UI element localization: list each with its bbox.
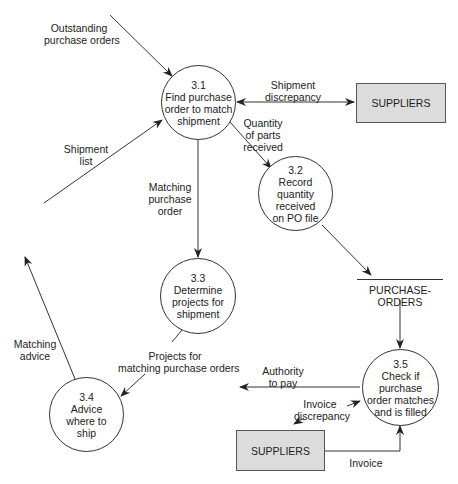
- process-label: Advice: [71, 403, 103, 415]
- flow-label-line: Matching: [148, 181, 192, 193]
- flow-label-line: Shipment: [262, 79, 324, 91]
- label-authority-to-pay: Authority to pay: [258, 365, 308, 389]
- label-shipment-list: Shipment list: [60, 143, 112, 167]
- process-label: ship: [77, 427, 96, 439]
- entity-label: SUPPLIERS: [372, 97, 431, 109]
- flow-label-line: list: [60, 155, 112, 167]
- flow-label-line: purchase: [148, 193, 192, 205]
- process-number: 3.4: [79, 391, 94, 403]
- flow-label-line: Quantity: [238, 117, 288, 129]
- entity-suppliers-bottom[interactable]: SUPPLIERS: [236, 430, 325, 471]
- label-matching-po: Matching purchase order: [148, 181, 192, 217]
- process-label: and is filled: [374, 406, 427, 418]
- flow-label-line: Invoice: [294, 398, 346, 410]
- flow-label-line: to pay: [258, 377, 308, 389]
- process-3-4[interactable]: 3.4 Advice where to ship: [49, 377, 124, 452]
- label-invoice: Invoice: [346, 457, 386, 469]
- process-label: order matches: [367, 394, 434, 406]
- label-shipment-discrepancy: Shipment discrepancy: [262, 79, 324, 103]
- process-label: Determine: [174, 284, 222, 296]
- process-label: Find purchase: [165, 91, 232, 103]
- process-3-1[interactable]: 3.1 Find purchase order to match shipmen…: [161, 65, 236, 140]
- process-label: shipment: [177, 115, 220, 127]
- process-3-2[interactable]: 3.2 Record quantity received on PO file: [258, 156, 333, 231]
- process-label: where to: [66, 415, 106, 427]
- flow-projects-b: [121, 374, 145, 396]
- flow-label-line: of parts: [238, 129, 288, 141]
- flow-label-line: Authority: [258, 365, 308, 377]
- datastore-purchase-orders[interactable]: PURCHASE-ORDERS: [357, 279, 443, 308]
- flow-label-line: Matching: [12, 338, 58, 350]
- flow-label-line: discrepancy: [294, 410, 346, 422]
- flow-label-line: Shipment: [60, 143, 112, 155]
- process-label: Record: [279, 176, 313, 188]
- process-number: 3.3: [191, 272, 206, 284]
- process-number: 3.1: [191, 79, 206, 91]
- flow-label-line: Invoice: [346, 457, 386, 469]
- process-label: on PO file: [272, 212, 318, 224]
- flow-projects-a: [172, 330, 182, 342]
- process-label: quantity: [277, 188, 314, 200]
- label-projects-matching: Projects for matching purchase orders: [118, 350, 232, 374]
- process-number: 3.2: [288, 164, 303, 176]
- flow-label-line: Projects for: [118, 350, 232, 362]
- label-quantity-parts: Quantity of parts received: [238, 117, 288, 153]
- flow-record-po: [322, 225, 371, 275]
- process-label: order to match: [165, 103, 233, 115]
- flow-invdisc-a: [347, 401, 360, 406]
- label-outstanding-po: Outstanding purchase orders: [44, 22, 114, 46]
- entity-suppliers-top[interactable]: SUPPLIERS: [356, 83, 446, 123]
- flow-label-line: purchase orders: [44, 34, 114, 46]
- flow-label-line: Outstanding: [44, 22, 114, 34]
- process-number: 3.5: [393, 358, 408, 370]
- flow-label-line: discrepancy: [262, 91, 324, 103]
- flow-label-line: order: [148, 205, 192, 217]
- process-3-3[interactable]: 3.3 Determine projects for shipment: [160, 258, 236, 334]
- process-label: shipment: [177, 308, 220, 320]
- process-label: received: [276, 200, 316, 212]
- flow-invoice: [325, 426, 400, 451]
- process-label: projects for: [172, 296, 224, 308]
- process-label: purchase: [379, 382, 422, 394]
- entity-label: SUPPLIERS: [251, 445, 310, 457]
- flow-label-line: advice: [12, 350, 58, 362]
- label-matching-advice: Matching advice: [12, 338, 58, 362]
- label-invoice-discrepancy: Invoice discrepancy: [294, 398, 346, 422]
- flow-label-line: received: [238, 141, 288, 153]
- process-label: Check if: [382, 370, 420, 382]
- process-3-5[interactable]: 3.5 Check if purchase order matches and …: [362, 349, 439, 426]
- flow-label-line: matching purchase orders: [118, 362, 232, 374]
- datastore-label: PURCHASE-ORDERS: [369, 284, 431, 308]
